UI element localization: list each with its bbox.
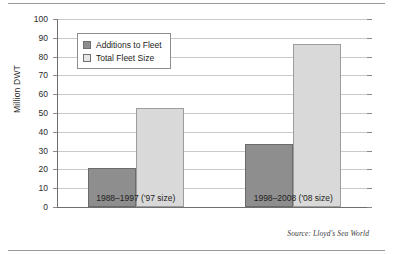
chart-figure: Million DWT 1009080706050403020100 1988–…: [0, 0, 393, 254]
y-axis-tick: [53, 57, 57, 58]
legend-swatch-icon: [83, 41, 91, 49]
y-axis-tick: [53, 132, 57, 133]
top-divider: [8, 3, 385, 4]
y-axis-tick: [53, 38, 57, 39]
y-axis-tick-right: [367, 169, 372, 170]
y-axis-tick-right: [367, 113, 372, 114]
y-axis-title: Million DWT: [12, 65, 22, 113]
legend-label: Additions to Fleet: [96, 40, 162, 50]
x-axis-category-label: 1998–2008 ('08 size): [254, 193, 333, 203]
legend-swatch-icon: [83, 54, 91, 62]
y-axis-tick-right: [367, 38, 372, 39]
y-axis-tick: [53, 188, 57, 189]
legend-label: Total Fleet Size: [96, 53, 154, 63]
y-axis-tick: [53, 19, 57, 20]
y-axis-tick-label: 80: [39, 52, 48, 61]
y-axis-tick-label: 30: [39, 146, 48, 155]
y-axis-tick-label: 10: [39, 184, 48, 193]
bar-total-fleet-size: [293, 44, 341, 207]
y-axis-tick-right: [367, 19, 372, 20]
x-axis-line: [57, 207, 372, 208]
y-axis-tick-label: 40: [39, 128, 48, 137]
y-axis-tick-label: 60: [39, 90, 48, 99]
y-axis-tick-label: 90: [39, 34, 48, 43]
y-axis-tick-label: 50: [39, 109, 48, 118]
y-axis-tick-label: 20: [39, 165, 48, 174]
y-axis-tick-right: [367, 132, 372, 133]
y-axis-tick-right: [367, 207, 372, 208]
chart-legend: Additions to Fleet Total Fleet Size: [77, 33, 171, 69]
legend-item-additions-to-fleet: Additions to Fleet: [83, 38, 162, 51]
y-axis-tick-right: [367, 188, 372, 189]
y-axis-tick-right: [367, 151, 372, 152]
y-axis-tick-label: 70: [39, 71, 48, 80]
y-axis-tick: [53, 207, 57, 208]
y-axis-tick: [53, 75, 57, 76]
y-axis-tick-label: 100: [34, 15, 48, 24]
legend-item-total-fleet-size: Total Fleet Size: [83, 51, 162, 64]
y-axis-tick: [53, 113, 57, 114]
bottom-divider: [8, 250, 385, 251]
gridline: [58, 19, 372, 20]
source-note: Source: Lloyd's Sea World: [287, 229, 369, 238]
y-axis-tick-label: 0: [43, 203, 48, 212]
y-axis-tick: [53, 151, 57, 152]
x-axis-category-label: 1988–1997 ('97 size): [96, 193, 175, 203]
y-axis-tick: [53, 169, 57, 170]
y-axis-tick-right: [367, 75, 372, 76]
y-axis-tick: [53, 94, 57, 95]
y-axis-tick-right: [367, 94, 372, 95]
y-axis-tick-right: [367, 57, 372, 58]
